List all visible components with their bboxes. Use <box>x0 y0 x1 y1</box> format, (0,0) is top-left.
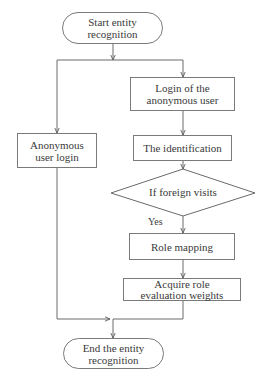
anonymous-login-line2: user login <box>35 151 79 163</box>
start-label-line2: recognition <box>87 28 137 40</box>
acquire-line1: Acquire role <box>154 279 209 290</box>
identification-label: The identification <box>143 142 222 154</box>
end-label-line2: recognition <box>88 354 138 366</box>
yes-edge-label: Yes <box>148 216 163 227</box>
foreign-visits-decision-label: If foreign visits <box>133 186 233 198</box>
end-terminal: End the entity recognition <box>63 338 164 369</box>
role-mapping-label: Role mapping <box>151 241 213 253</box>
anonymous-login-line1: Anonymous <box>30 139 84 151</box>
start-label-line1: Start entity <box>88 16 137 28</box>
acquire-role-weights-box: Acquire role evaluation weights <box>123 278 241 301</box>
start-terminal: Start entity recognition <box>62 12 163 44</box>
role-mapping-box: Role mapping <box>129 233 235 260</box>
login-anon-line2: anonymous user <box>147 94 219 106</box>
end-label-line1: End the entity <box>83 342 145 354</box>
identification-box: The identification <box>133 135 232 161</box>
acquire-line2: evaluation weights <box>141 290 224 301</box>
login-anon-line1: Login of the <box>155 82 209 94</box>
login-of-anonymous-user-box: Login of the anonymous user <box>130 77 235 111</box>
anonymous-user-login-box: Anonymous user login <box>17 133 97 168</box>
